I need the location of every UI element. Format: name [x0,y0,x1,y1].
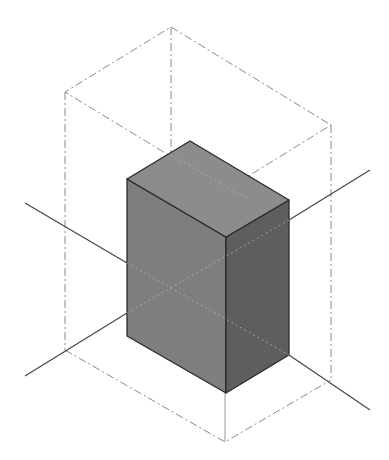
axis-line-upper-right [289,170,370,220]
solid-box [127,141,289,393]
axis-line-lower-right [289,355,370,410]
isometric-box-diagram [0,0,389,460]
axis-line-lower-left [25,313,127,376]
axis-line-upper-left [25,203,127,263]
